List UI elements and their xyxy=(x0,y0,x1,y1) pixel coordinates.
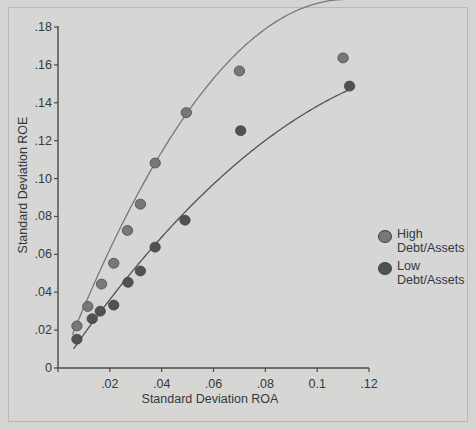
x-tick-label: 0.1 xyxy=(308,377,325,391)
legend-item: High Debt/Assets xyxy=(378,228,474,255)
y-tick-label: 0 xyxy=(14,361,52,375)
marker-low-9 xyxy=(344,81,354,91)
marker-high-8 xyxy=(234,66,244,76)
data-point xyxy=(123,277,133,287)
y-tick-label: .12 xyxy=(14,134,52,148)
marker-low-8 xyxy=(236,126,246,136)
marker-high-7 xyxy=(181,108,191,118)
data-point xyxy=(135,199,145,209)
y-tick-label: .02 xyxy=(14,323,52,337)
x-tick-label: .04 xyxy=(153,377,170,391)
data-point xyxy=(150,158,160,168)
legend-label: Low Debt/Assets xyxy=(397,260,464,287)
data-point xyxy=(236,126,246,136)
marker-low-0 xyxy=(72,334,82,344)
marker-high-4 xyxy=(122,225,132,235)
legend-item: Low Debt/Assets xyxy=(378,260,474,287)
fit-curve-high xyxy=(72,0,345,335)
x-tick-label: .02 xyxy=(101,377,118,391)
marker-high-9 xyxy=(338,53,348,63)
legend-marker-icon xyxy=(378,230,392,243)
data-point xyxy=(234,66,244,76)
legend-marker-icon xyxy=(378,262,392,275)
marker-high-1 xyxy=(83,301,93,311)
y-tick-label: .16 xyxy=(14,58,52,72)
data-point xyxy=(95,306,105,316)
data-point xyxy=(344,81,354,91)
marker-high-6 xyxy=(150,158,160,168)
y-tick-label: .18 xyxy=(14,20,52,34)
data-point xyxy=(150,242,160,252)
data-point xyxy=(122,225,132,235)
chart-legend: High Debt/AssetsLow Debt/Assets xyxy=(378,228,474,292)
marker-high-3 xyxy=(109,258,119,268)
y-tick-label: .10 xyxy=(14,172,52,186)
data-point xyxy=(87,314,97,324)
legend-label: High Debt/Assets xyxy=(397,228,464,255)
y-tick-label: .06 xyxy=(14,247,52,261)
data-point xyxy=(83,301,93,311)
marker-low-6 xyxy=(150,242,160,252)
marker-low-3 xyxy=(109,300,119,310)
marker-high-5 xyxy=(135,199,145,209)
marker-low-1 xyxy=(87,314,97,324)
data-point xyxy=(96,279,106,289)
data-point xyxy=(72,334,82,344)
marker-low-2 xyxy=(95,306,105,316)
y-tick-label: .04 xyxy=(14,285,52,299)
data-point xyxy=(180,215,190,225)
x-tick-label: .08 xyxy=(257,377,274,391)
marker-high-0 xyxy=(72,321,82,331)
data-point xyxy=(109,258,119,268)
marker-low-7 xyxy=(180,215,190,225)
data-point xyxy=(135,266,145,276)
data-point xyxy=(181,108,191,118)
x-axis-title: Standard Deviation ROA xyxy=(58,392,362,406)
marker-low-4 xyxy=(123,277,133,287)
plot-canvas xyxy=(0,0,476,430)
y-tick-label: .14 xyxy=(14,96,52,110)
data-point xyxy=(109,300,119,310)
data-point xyxy=(338,53,348,63)
x-tick-label: .06 xyxy=(205,377,222,391)
chart-figure: Standard Deviation ROE Standard Deviatio… xyxy=(0,0,476,430)
marker-low-5 xyxy=(135,266,145,276)
y-tick-label: .08 xyxy=(14,209,52,223)
data-point xyxy=(72,321,82,331)
marker-high-2 xyxy=(96,279,106,289)
x-tick-label: .12 xyxy=(360,377,377,391)
